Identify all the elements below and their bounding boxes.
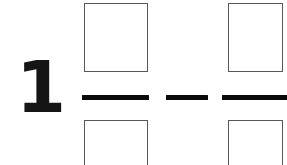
- term2-fraction-bar: [222, 95, 287, 100]
- term1-numerator-answer-box[interactable]: [84, 3, 148, 72]
- worksheet-canvas: 1: [0, 0, 287, 165]
- term2-denominator-answer-box[interactable]: [228, 120, 283, 165]
- term1-fraction-bar: [82, 95, 149, 100]
- minus-operator-icon: [166, 95, 208, 100]
- problem-number: 1: [16, 50, 60, 124]
- term1-denominator-answer-box[interactable]: [84, 120, 148, 165]
- term2-numerator-answer-box[interactable]: [228, 3, 283, 72]
